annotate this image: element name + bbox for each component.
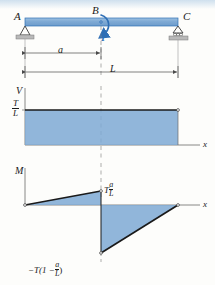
roller-circle: [174, 33, 177, 36]
shear-value-denominator: L: [12, 108, 19, 118]
label-point-b: B: [92, 5, 99, 16]
label-point-a: A: [14, 11, 21, 22]
moment-min-prefix: −T(1 −: [28, 265, 55, 275]
roller-circle: [177, 33, 180, 36]
label-shear-x-axis: x: [203, 140, 207, 149]
moment-peak-label: TaL: [104, 181, 113, 198]
diagram-canvas: [0, 0, 215, 285]
beam-diagram-figure: A B C T a L V T L x M TaL −T(1 −aL) x: [0, 0, 215, 285]
label-shear-axis-v: V: [16, 86, 22, 96]
support-base-a: [16, 35, 34, 39]
label-point-c: C: [183, 11, 190, 22]
moment-peak-marker: [100, 190, 103, 193]
shear-value-label: T L: [12, 99, 19, 118]
label-dimension-L: L: [110, 64, 116, 74]
label-moment-x-axis: x: [203, 200, 207, 209]
moment-peak-numerator: a: [109, 181, 113, 189]
beam-body: [25, 18, 178, 26]
roller-support-triangle-c: [173, 26, 183, 33]
pin-support-triangle-a: [20, 26, 30, 35]
top-band: [0, 0, 215, 9]
shear-region-fill: [25, 110, 178, 145]
roller-circle: [180, 33, 183, 36]
shear-value-numerator: T: [12, 99, 19, 108]
shear-endpoint-marker: [177, 109, 180, 112]
label-moment-axis-m: M: [15, 166, 23, 176]
label-torque-t: T: [100, 33, 106, 43]
moment-peak-denominator: L: [109, 189, 113, 198]
support-base-c: [169, 36, 188, 40]
moment-endpoint-c: [177, 204, 180, 207]
moment-min-label: −T(1 −aL): [28, 261, 62, 278]
label-dimension-a: a: [58, 45, 63, 55]
moment-endpoint-a: [24, 204, 27, 207]
moment-min-suffix: ): [59, 265, 62, 275]
